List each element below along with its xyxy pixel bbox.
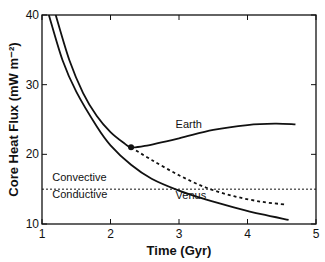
y-axis-label: Core Heat Flux (mW m⁻²) bbox=[6, 42, 21, 196]
chart: 1234510203040Time (Gyr)Core Heat Flux (m… bbox=[0, 0, 325, 262]
y-tick-label: 10 bbox=[26, 217, 40, 231]
y-tick-label: 30 bbox=[26, 78, 40, 92]
annotation-venus: Venus bbox=[176, 189, 207, 201]
x-tick-label: 4 bbox=[244, 227, 251, 241]
inner-core-onset-marker bbox=[128, 144, 134, 150]
annotation-conductive: Conductive bbox=[52, 188, 107, 200]
x-axis-label: Time (Gyr) bbox=[147, 243, 212, 258]
annotation-convective: Convective bbox=[52, 171, 106, 183]
y-tick-label: 20 bbox=[26, 147, 40, 161]
x-tick-label: 2 bbox=[107, 227, 114, 241]
series-earth-no-inner-core- bbox=[131, 147, 285, 204]
x-tick-label: 1 bbox=[39, 227, 46, 241]
annotation-earth: Earth bbox=[176, 118, 202, 130]
y-tick-label: 40 bbox=[26, 8, 40, 22]
x-tick-label: 3 bbox=[176, 227, 183, 241]
x-tick-label: 5 bbox=[313, 227, 320, 241]
